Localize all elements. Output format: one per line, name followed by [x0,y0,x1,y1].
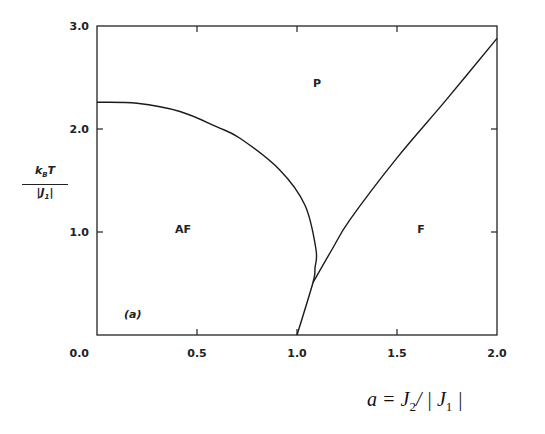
y-axis-label-denominator: |J1| [22,185,68,205]
y-tick-label: 3.0 [70,20,90,33]
region-labels: PAFF [175,77,425,236]
y-tick-label: 1.0 [70,226,90,239]
x-tick-label: 1.5 [387,347,407,360]
phase-boundaries [97,38,497,335]
x-tick-label: 2.0 [487,347,507,360]
x-tick-label: 0.5 [187,347,207,360]
x-tick-label: 1.0 [287,347,307,360]
phase-boundary-curve [97,102,317,335]
panel-label: (a) [124,308,141,321]
x-axis-label: a = J2/ | J1 | [367,388,463,415]
phase-boundary-curve [313,38,497,282]
region-label-af: AF [175,223,191,236]
region-label-p: P [313,77,321,90]
x-tick-label: 0.0 [70,347,90,360]
axis-ticks [97,26,497,335]
plot-frame [97,26,497,335]
y-tick-label: 2.0 [70,123,90,136]
y-axis-label-numerator: kBT [22,163,68,185]
y-axis-label: kBT |J1| [22,163,68,205]
phase-diagram: 0.00.51.01.52.01.02.03.0 PAFF (a) [0,0,545,434]
region-label-f: F [417,223,425,236]
